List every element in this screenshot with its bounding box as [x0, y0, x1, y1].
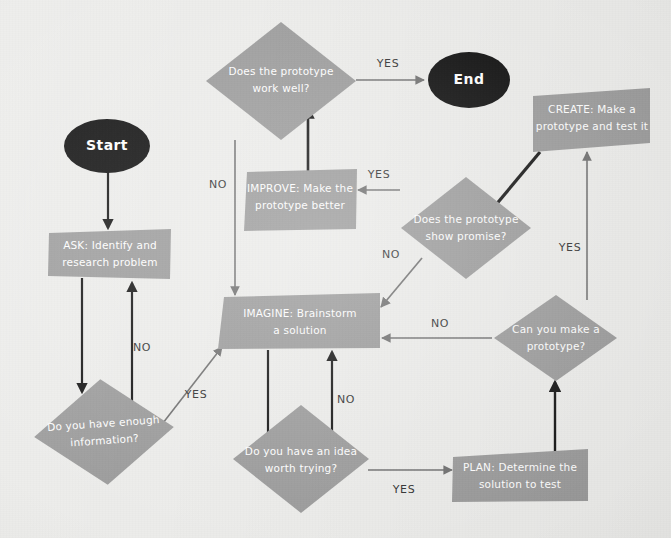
edge-label-show-promise-no: NO: [382, 248, 400, 261]
node-improve[interactable]: IMPROVE: Make the prototype better: [244, 169, 357, 231]
edge-enough-info-yes: YES: [156, 347, 222, 432]
node-ask-label-line1: ASK: Identify and: [63, 239, 157, 251]
node-end[interactable]: End: [428, 52, 510, 108]
node-end-label: End: [454, 71, 485, 87]
node-create-label-line2: prototype and test it: [536, 120, 648, 132]
edge-work-well-no: NO: [209, 140, 235, 295]
node-work-well-label-line2: work well?: [252, 82, 309, 94]
edge-can-prototype-yes: YES: [558, 152, 587, 300]
edge-idea-yes: YES: [368, 470, 452, 496]
edge-work-well-yes: YES: [356, 57, 424, 80]
edge-show-promise-yes: YES: [358, 168, 400, 190]
node-start[interactable]: Start: [64, 119, 150, 173]
node-idea-worth-label-line1: Do you have an idea: [245, 445, 357, 457]
edge-label-work-well-no: NO: [209, 178, 227, 191]
node-idea-worth-label-line2: worth trying?: [265, 462, 338, 474]
edge-label-enough-info-no: NO: [133, 341, 151, 354]
node-imagine-label-line1: IMAGINE: Brainstorm: [243, 307, 356, 319]
node-enough-info[interactable]: Do you have enough information?: [30, 374, 177, 490]
node-idea-worth[interactable]: Do you have an idea worth trying?: [233, 405, 369, 513]
node-imagine-label-line2: a solution: [273, 324, 326, 336]
edge-label-work-well-yes: YES: [376, 57, 399, 70]
edge-label-can-prototype-yes: YES: [558, 241, 581, 254]
node-plan-label-line2: solution to test: [479, 478, 561, 490]
edge-show-promise-no: NO: [381, 248, 422, 307]
edge-idea-no: NO: [332, 352, 355, 440]
node-can-prototype-label-line1: Can you make a: [512, 323, 600, 335]
node-can-prototype-label-line2: prototype?: [527, 340, 586, 352]
node-can-prototype[interactable]: Can you make a prototype?: [494, 295, 617, 381]
edge-can-prototype-no: NO: [382, 317, 492, 338]
node-improve-label-line2: prototype better: [255, 199, 345, 211]
node-plan-label-line1: PLAN: Determine the: [463, 461, 577, 473]
node-ask[interactable]: ASK: Identify and research problem: [48, 229, 171, 279]
node-work-well-label-line1: Does the prototype: [228, 65, 333, 77]
edge-label-idea-no: NO: [337, 393, 355, 406]
flowchart-canvas: NO YES NO YES NO: [0, 0, 671, 538]
edge-label-can-prototype-no: NO: [431, 317, 449, 330]
node-plan[interactable]: PLAN: Determine the solution to test: [452, 449, 588, 502]
node-start-label: Start: [86, 137, 128, 153]
flowchart-svg: NO YES NO YES NO: [0, 0, 671, 538]
edge-label-idea-yes: YES: [392, 483, 415, 496]
node-ask-label-line2: research problem: [62, 256, 157, 268]
node-show-promise-label-line1: Does the prototype: [413, 213, 518, 225]
edge-label-show-promise-yes: YES: [367, 168, 390, 181]
node-improve-label-line1: IMPROVE: Make the: [247, 182, 353, 194]
node-show-promise-label-line2: show promise?: [426, 230, 507, 242]
node-create[interactable]: CREATE: Make a prototype and test it: [533, 88, 650, 152]
node-work-well[interactable]: Does the prototype work well?: [206, 22, 356, 140]
edge-label-enough-info-yes: YES: [184, 388, 207, 401]
node-show-promise[interactable]: Does the prototype show promise?: [401, 177, 531, 279]
node-create-label-line1: CREATE: Make a: [548, 103, 636, 115]
node-imagine[interactable]: IMAGINE: Brainstorm a solution: [218, 293, 380, 349]
